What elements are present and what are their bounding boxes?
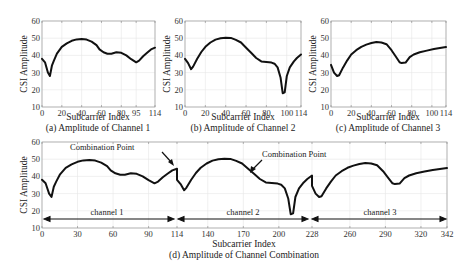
- caption-a: (a) Amplitude of Channel 1: [46, 123, 151, 134]
- caption-c: (c) Amplitude of Channel 3: [336, 123, 441, 134]
- x-tick-label: 114: [171, 229, 184, 239]
- y-tick-label: 20: [175, 85, 184, 95]
- ylabel-d: CSI Amplitude: [19, 156, 29, 213]
- ylabel-a: CSI Amplitude: [19, 35, 29, 92]
- x-tick-label: 114: [295, 108, 308, 118]
- xlabel-c: Subcarrier Index: [356, 112, 420, 122]
- y-tick-label: 40: [175, 50, 184, 60]
- x-tick-label: 0: [40, 108, 44, 118]
- csi-amplitude-line: [42, 159, 447, 215]
- y-tick-label: 30: [32, 189, 41, 199]
- figure: 0204060809511410203040506002040608010011…: [0, 0, 469, 273]
- xlabel-a: Subcarrier Index: [66, 112, 130, 122]
- x-tick-label: 320: [415, 229, 428, 239]
- x-tick-label: 60: [109, 229, 118, 239]
- x-tick-label: 90: [144, 229, 153, 239]
- y-tick-label: 10: [32, 102, 41, 112]
- y-tick-label: 30: [321, 68, 330, 78]
- x-tick-label: 290: [379, 229, 392, 239]
- panel-d: 0306090114140170200228260290320342102030…: [32, 137, 454, 239]
- y-tick-label: 60: [321, 16, 330, 26]
- x-tick-label: 260: [344, 229, 357, 239]
- y-tick-label: 30: [175, 68, 184, 78]
- y-tick-label: 20: [32, 206, 41, 216]
- y-tick-label: 20: [32, 85, 41, 95]
- x-tick-label: 100: [280, 108, 293, 118]
- panel-c: 020406080100114102030405060: [321, 16, 453, 118]
- y-tick-label: 40: [321, 50, 330, 60]
- x-tick-label: 0: [183, 108, 187, 118]
- x-tick-label: 140: [201, 229, 214, 239]
- xlabel-b: Subcarrier Index: [211, 112, 275, 122]
- x-tick-label: 20: [201, 108, 210, 118]
- y-tick-label: 20: [321, 85, 330, 95]
- panel-b: 020406080100114102030405060: [175, 16, 308, 118]
- csi-amplitude-line: [331, 42, 446, 76]
- y-tick-label: 40: [32, 171, 41, 181]
- combination-point-label-2: Combination Point: [262, 149, 327, 159]
- x-tick-label: 100: [426, 108, 439, 118]
- y-tick-label: 50: [32, 154, 41, 164]
- x-tick-label: 114: [440, 108, 453, 118]
- x-tick-label: 0: [40, 229, 44, 239]
- channel-3-label: channel 3: [364, 207, 397, 217]
- y-tick-label: 60: [32, 16, 41, 26]
- csi-amplitude-line: [185, 38, 301, 93]
- x-tick-label: 30: [73, 229, 82, 239]
- y-tick-label: 60: [175, 16, 184, 26]
- y-tick-label: 10: [175, 102, 184, 112]
- x-tick-label: 114: [149, 108, 162, 118]
- x-tick-label: 170: [237, 229, 250, 239]
- caption-d: (d) Amplitude of Channel Combination: [169, 250, 319, 261]
- y-tick-label: 50: [32, 33, 41, 43]
- csi-amplitude-line: [42, 39, 155, 76]
- ylabel-c: CSI Amplitude: [308, 35, 318, 92]
- y-tick-label: 50: [321, 33, 330, 43]
- y-tick-label: 60: [32, 137, 41, 147]
- y-tick-label: 10: [321, 102, 330, 112]
- x-tick-label: 0: [329, 108, 333, 118]
- combination-point-label-1: Combination Point: [70, 142, 135, 152]
- y-tick-label: 50: [175, 33, 184, 43]
- x-tick-label: 342: [441, 229, 454, 239]
- caption-b: (b) Amplitude of Channel 2: [190, 123, 295, 134]
- x-tick-label: 95: [132, 108, 141, 118]
- y-tick-label: 30: [32, 68, 41, 78]
- x-tick-label: 20: [347, 108, 356, 118]
- panel-a: 02040608095114102030405060: [32, 16, 162, 118]
- y-tick-label: 40: [32, 50, 41, 60]
- channel-1-label: channel 1: [91, 207, 124, 217]
- xlabel-d: Subcarrier Index: [212, 239, 276, 249]
- x-tick-label: 20: [58, 108, 67, 118]
- y-tick-label: 10: [32, 223, 41, 233]
- x-tick-label: 228: [306, 229, 319, 239]
- x-tick-label: 200: [272, 229, 285, 239]
- ylabel-b: CSI Amplitude: [162, 35, 172, 92]
- channel-2-label: channel 2: [227, 207, 260, 217]
